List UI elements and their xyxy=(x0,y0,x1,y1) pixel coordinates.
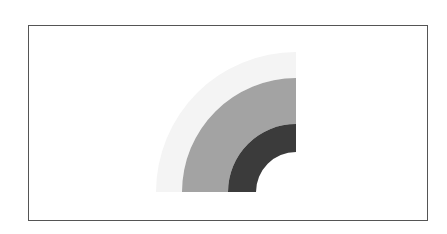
concentric-arc-chart xyxy=(0,0,447,234)
ring-group xyxy=(156,52,296,192)
